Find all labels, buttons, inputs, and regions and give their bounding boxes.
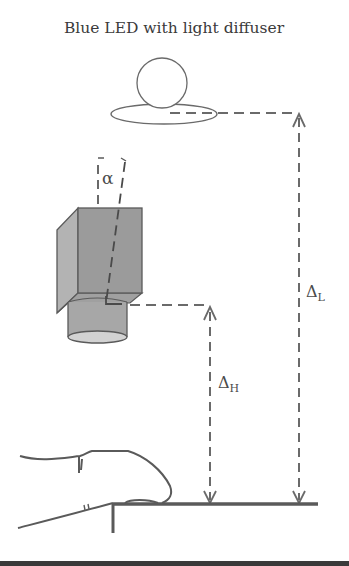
delta-l-label: ΔL [306, 282, 326, 304]
finger-lower-outline [18, 503, 113, 528]
delta-h-label: ΔH [218, 373, 239, 395]
led-with-diffuser [111, 58, 217, 124]
optical-axis-tick [121, 158, 126, 161]
platform [113, 504, 318, 533]
camera [57, 208, 142, 343]
delta-l-dimension [293, 114, 305, 503]
led-bulb [137, 58, 187, 108]
lens-bottom [68, 331, 127, 343]
delta-h-dimension [204, 307, 216, 503]
angle-alpha-label: α [102, 168, 114, 188]
camera-front-face [78, 208, 142, 293]
finger-upper-outline [20, 451, 171, 503]
finger [18, 451, 171, 528]
setup-diagram: Blue LED with light diffuser ΔL α [0, 0, 349, 566]
finger-crease [79, 457, 82, 473]
bottom-border-bar [0, 561, 349, 566]
figure-title: Blue LED with light diffuser [64, 19, 285, 37]
